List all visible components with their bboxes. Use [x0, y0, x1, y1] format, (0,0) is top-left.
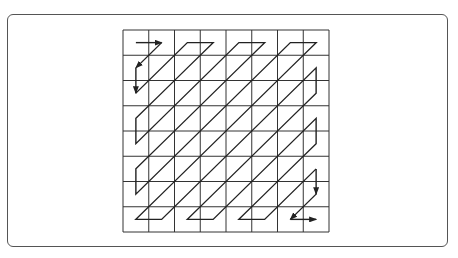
zigzag-scan-diagram — [0, 0, 458, 258]
